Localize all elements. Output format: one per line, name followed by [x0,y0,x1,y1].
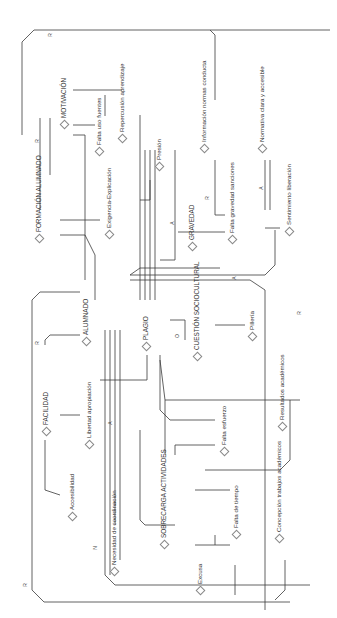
node-facilidad: FACILIDAD [42,392,50,435]
node-concepcion-trabajos: Concepción trabajos académicos [275,441,283,542]
node-alumnado: ALUMNADO [82,299,90,345]
diamond-icon [154,162,164,172]
diamond-icon [284,227,294,237]
edge-label: R [34,341,40,345]
edge-label: R [47,33,53,37]
diamond-icon [81,337,91,347]
node-informacion-normas-conducta: Información normas conducta [200,60,208,152]
edge-label: R [34,139,40,143]
diamond-icon [219,447,229,457]
diamond-icon [227,235,237,245]
edge-label: A [231,276,237,279]
node-resultados-academicos: Resultados académicos [278,354,286,430]
edge-label: R [204,196,210,200]
diamond-icon [41,427,51,437]
node-formacion-alumnado: FORMACIÓN ALUMNADO [35,155,43,242]
node-falta-esfuerzo: Falta esfuerzo [220,406,228,455]
node-repercusion-aprendizaje: Repercusión aprendizaje [118,64,126,142]
node-presion: Presión [155,139,163,170]
diamond-icon [159,540,169,550]
edge-label: N [92,546,98,550]
diamond-icon [195,586,205,596]
diamond-icon [84,440,94,450]
diamond-icon [104,230,114,240]
node-cuestion-sociocultural: CUESTIÓN SOCIOCULTURAL [193,261,201,360]
diamond-icon [187,242,197,252]
diamond-icon [141,342,151,352]
edge-label: A [258,186,264,189]
diamond-icon [247,332,257,342]
diamond-icon [231,530,241,540]
diamond-icon [34,234,44,244]
node-excusa: Excusa [196,564,204,594]
node-motivacion: MOTIVACIÓN [60,78,68,128]
node-normativa-clara: Normativa clara y accesible [258,66,266,152]
node-falta-gravedad-sanciones: Falta gravedad sanciones [228,162,236,243]
diagram-canvas: Repercusión aprendizaje MOTIVACIÓN Falta… [0,0,337,618]
edge-label: O [174,334,180,338]
edge-label: A [107,421,113,424]
node-falta-tiempo: Falta de tiempo [232,485,240,538]
diamond-icon [257,144,267,154]
diamond-icon [192,352,202,362]
diamond-icon [59,120,69,130]
diamond-icon [199,144,209,154]
diamond-icon [67,512,77,522]
connector-lines [0,0,337,618]
node-necesidad-coordinacion: Necesidad de coordinación [110,490,118,575]
diamond-icon [94,147,104,157]
node-falta-uso-fuentes: Falta uso fuentes [95,98,103,155]
edge-label: R [296,311,302,315]
node-plagio: PLAGIO [142,316,150,350]
node-gravedad: GRAVEDAD [188,205,196,250]
diamond-icon [117,134,127,144]
diamond-icon [109,567,119,577]
node-sobrecarga-actividades: SOBRECARGA ACTIVIDADES [160,449,168,548]
diamond-icon [274,534,284,544]
node-pilleria: Pillería [248,311,256,340]
diamond-icon [277,422,287,432]
node-accesibilidad: Accesibilidad [68,474,76,520]
edge-label: A [169,221,175,224]
node-exigencia-explicacion: Exigencia-Explicación [105,168,113,238]
edge-label: R [22,583,28,587]
node-libertad-apropiacion: Libertad apropiación [85,382,93,448]
node-sentimiento-liberacion: Sentimiento liberación [285,164,293,235]
